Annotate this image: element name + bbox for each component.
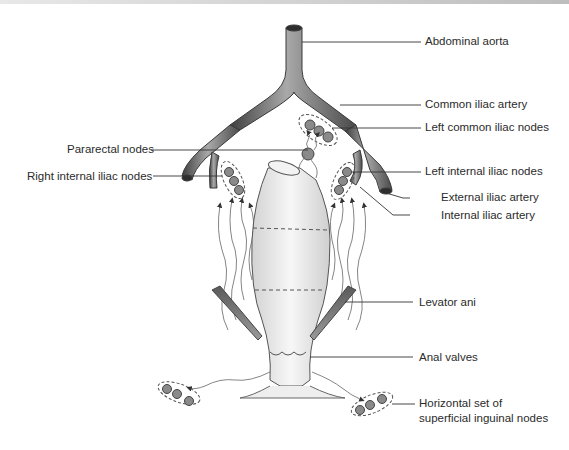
rectum [240, 158, 345, 398]
label-pararectal-nodes: Pararectal nodes [67, 143, 154, 156]
label-inguinal-nodes-line2: superficial inguinal nodes [419, 412, 548, 425]
left-inguinal-nodes [155, 377, 203, 409]
anatomy-diagram [0, 0, 569, 450]
label-left-internal-iliac-nodes: Left internal iliac nodes [425, 165, 543, 178]
label-inguinal-nodes-line1: Horizontal set of [419, 397, 502, 410]
label-abdominal-aorta: Abdominal aorta [425, 35, 509, 48]
label-internal-iliac-artery: Internal iliac artery [441, 209, 535, 222]
label-levator-ani: Levator ani [419, 296, 476, 309]
label-anal-valves: Anal valves [419, 351, 478, 364]
label-external-iliac-artery: External iliac artery [441, 191, 539, 204]
right-internal-iliac-nodes [216, 158, 249, 202]
label-common-iliac-artery: Common iliac artery [425, 98, 527, 111]
label-left-common-iliac-nodes: Left common iliac nodes [425, 121, 549, 134]
right-inguinal-nodes [348, 387, 396, 420]
label-right-internal-iliac-nodes: Right internal iliac nodes [27, 170, 152, 183]
